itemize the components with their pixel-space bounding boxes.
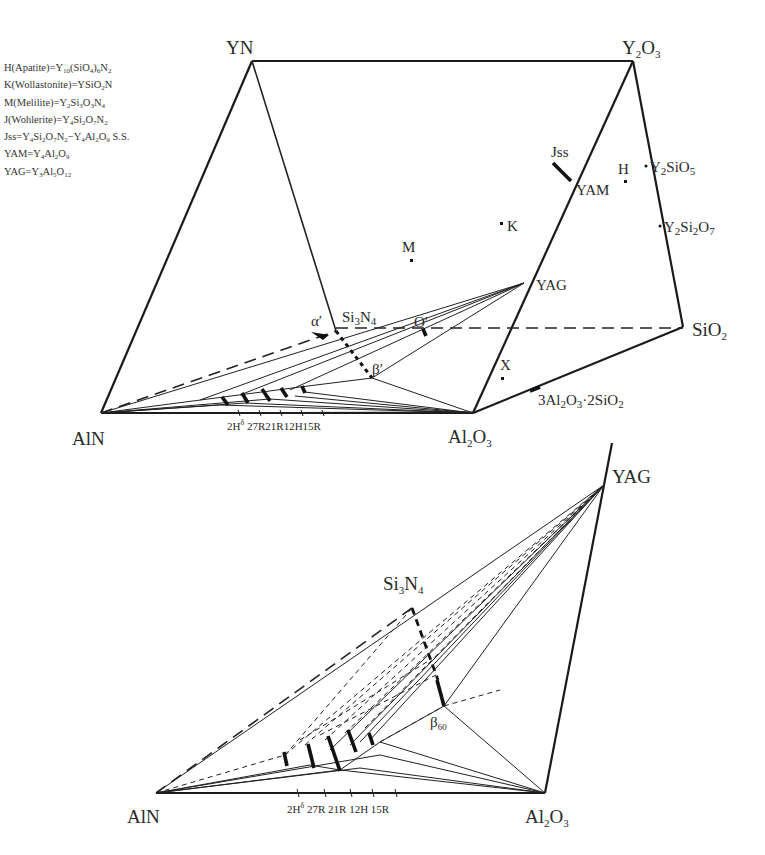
tie-line — [101, 283, 524, 413]
label-beta60: β60 — [430, 714, 447, 732]
edge-y2o3-sio2 — [633, 61, 683, 327]
tie-line — [156, 755, 380, 793]
polytype-bar-2h — [222, 397, 228, 405]
tie-line — [380, 742, 545, 793]
tie-line — [245, 403, 473, 413]
vertex-label-aln: AlN — [127, 806, 160, 827]
beta60-bar — [437, 680, 444, 706]
tie-line — [300, 378, 372, 387]
label-m: M — [402, 239, 415, 255]
tie-line — [350, 485, 604, 745]
label-o-prime: O′ — [414, 314, 428, 330]
edge-yn-si3n4 — [252, 61, 336, 331]
polytype-bar-15r — [369, 733, 373, 745]
label-jss: Jss — [551, 144, 569, 160]
label-k: K — [507, 218, 518, 234]
dashed-tie-line — [320, 675, 436, 735]
point-m — [410, 259, 413, 262]
edge-aln-yag — [156, 485, 604, 793]
point-y2si2o7 — [659, 225, 662, 228]
lower-subsystem: YAG AlN Al2O3 Si3N4 β60 2Hδ 27R 21R 12H … — [127, 443, 651, 829]
dashed-tie-line — [285, 485, 604, 755]
point-k — [500, 222, 503, 225]
label-x: X — [500, 357, 511, 373]
hidden-edge-aln-si3n4 — [156, 608, 412, 793]
tie-line — [360, 485, 604, 742]
point-x — [501, 377, 504, 380]
polytype-labels: 2Hδ 27R 21R 12H 15R — [287, 801, 390, 815]
label-alpha-prime: α′ — [311, 313, 322, 329]
vertex-label-sio2: SiO2 — [692, 319, 727, 342]
label-y2si2o7: Y2Si2O7 — [664, 219, 715, 237]
polytype-bar-15r — [302, 386, 305, 393]
edge-y2o3-al2o3 — [473, 61, 633, 413]
alpha-prime-arrow-icon — [311, 332, 329, 340]
edge-yag-extension — [604, 443, 612, 485]
tie-line — [444, 706, 545, 793]
label-beta-prime: β′ — [372, 361, 383, 377]
vertex-label-y2o3: Y2O3 — [622, 37, 661, 60]
polytype-bar-12h — [348, 730, 356, 752]
point-y2sio5 — [645, 165, 648, 168]
vertex-label-al2o3: Al2O3 — [525, 806, 569, 829]
jss-solid-solution-bar — [553, 163, 571, 181]
vertex-label-si3n4: Si3N4 — [383, 573, 424, 596]
polytype-bar-12h — [281, 388, 287, 397]
polytype-bar-21r — [328, 736, 340, 771]
label-mullite: 3Al2O3·2SiO2 — [538, 392, 624, 410]
edge-yn-aln — [101, 61, 252, 413]
vertex-label-yn: YN — [226, 37, 254, 58]
tie-line — [444, 485, 604, 706]
label-y2sio5: Y2SiO5 — [650, 159, 696, 177]
tie-line — [340, 770, 545, 793]
dashed-tie-line — [444, 690, 500, 706]
vertex-label-yag: YAG — [612, 466, 651, 487]
phase-diagram-canvas: YN Y2O3 AlN Al2O3 SiO2 Si3N4 Jss YAM H K… — [0, 0, 765, 855]
label-h: H — [618, 161, 629, 177]
label-yag: YAG — [536, 277, 567, 293]
tie-line — [240, 283, 524, 395]
vertex-label-al2o3: Al2O3 — [448, 426, 492, 449]
label-yam: YAM — [576, 182, 609, 198]
upper-prism: YN Y2O3 AlN Al2O3 SiO2 Si3N4 Jss YAM H K… — [72, 37, 727, 449]
o-prime-mark — [423, 329, 426, 336]
vertex-label-si3n4: Si3N4 — [342, 309, 377, 327]
vertex-label-aln: AlN — [72, 428, 105, 449]
dashed-tie-line — [365, 485, 604, 728]
tie-line — [200, 283, 524, 400]
point-h — [624, 180, 627, 183]
dashed-tie-line — [305, 485, 604, 745]
tie-line — [270, 399, 473, 413]
mullite-mark — [530, 387, 540, 391]
polytype-bar-27r — [308, 744, 314, 768]
polytype-labels: 2Hδ 27R21R12H15R — [227, 418, 322, 432]
